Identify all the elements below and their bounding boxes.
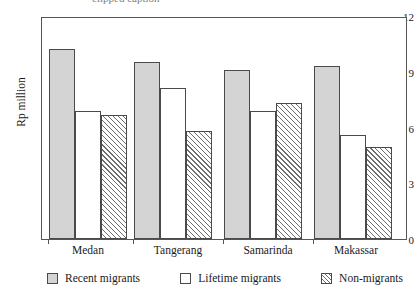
x-tick-mark-1 — [133, 240, 134, 244]
bar-makassar-lifetime-migrants — [340, 135, 366, 239]
bar-samarinda-recent-migrants — [224, 70, 250, 239]
bar-samarinda-lifetime-migrants — [250, 111, 276, 239]
bar-makassar-non-migrants — [366, 147, 392, 239]
bar-samarinda-non-migrants — [276, 103, 302, 239]
x-category-label-makassar: Makassar — [334, 244, 378, 257]
x-category-label-samarinda: Samarinda — [243, 244, 292, 257]
x-tick-mark-0 — [48, 240, 49, 244]
legend-item-recent-migrants: Recent migrants — [47, 272, 140, 284]
clipped-caption-sliver: clipped caption — [92, 0, 272, 5]
bar-tangerang-lifetime-migrants — [160, 88, 186, 239]
chart-legend: Recent migrants Lifetime migrants Non-mi… — [41, 268, 407, 288]
clipped-caption-text: clipped caption — [92, 0, 160, 4]
bar-medan-non-migrants — [101, 115, 127, 240]
bar-chart-figure: clipped caption 12 9 6 3 0 Rp million Me… — [0, 0, 414, 293]
bar-medan-recent-migrants — [49, 49, 75, 239]
bar-tangerang-non-migrants — [186, 131, 212, 239]
solid-gray-swatch-icon — [47, 273, 58, 284]
plot-area — [41, 17, 407, 240]
y-axis-title: Rp million — [15, 57, 27, 147]
white-swatch-icon — [180, 273, 191, 284]
bar-makassar-recent-migrants — [314, 66, 340, 239]
legend-label-recent-migrants: Recent migrants — [65, 272, 140, 284]
x-tick-mark-3 — [313, 240, 314, 244]
bar-tangerang-recent-migrants — [134, 62, 160, 239]
x-category-label-tangerang: Tangerang — [154, 244, 202, 257]
legend-item-lifetime-migrants: Lifetime migrants — [180, 272, 281, 284]
x-tick-mark-2 — [223, 240, 224, 244]
legend-item-non-migrants: Non-migrants — [321, 272, 403, 284]
hatched-swatch-icon — [321, 273, 332, 284]
x-category-label-medan: Medan — [72, 244, 104, 257]
legend-label-non-migrants: Non-migrants — [339, 272, 403, 284]
legend-label-lifetime-migrants: Lifetime migrants — [198, 272, 281, 284]
bar-medan-lifetime-migrants — [75, 111, 101, 239]
